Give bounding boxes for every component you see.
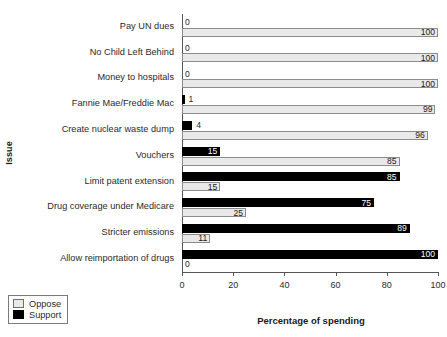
bar-row: 85	[182, 157, 438, 166]
x-tick	[387, 272, 388, 276]
category-label: Allow reimportation of drugs	[0, 253, 174, 263]
bar-row: 100	[182, 28, 438, 37]
x-tick	[336, 272, 337, 276]
bar-row: 0	[182, 69, 438, 78]
category-label: Stricter emissions	[0, 227, 174, 237]
x-tick	[233, 272, 234, 276]
bar-value-label: 15	[182, 146, 220, 156]
x-tick	[182, 272, 183, 276]
x-tick-label: 40	[279, 280, 289, 290]
category-label: Money to hospitals	[0, 72, 174, 82]
bar-group: Money to hospitals0100	[182, 66, 438, 92]
x-tick-label: 20	[228, 280, 238, 290]
bar-group: Vouchers1585	[182, 143, 438, 169]
bar-row: 100	[182, 79, 438, 88]
bar-support[interactable]	[182, 95, 185, 104]
bar-value-label: 11	[182, 233, 210, 243]
category-label: Fannie Mae/Freddie Mac	[0, 98, 174, 108]
bar-row: 15	[182, 182, 438, 191]
bar-value-label: 96	[182, 130, 428, 140]
bar-value-label: 0	[185, 17, 190, 27]
bar-group: Allow reimportation of drugs1000	[182, 246, 438, 272]
legend-label: Support	[29, 310, 61, 320]
bar-value-label: 100	[182, 79, 438, 89]
bar-value-label: 0	[185, 69, 190, 79]
x-tick	[438, 272, 439, 276]
bar-value-label: 100	[182, 27, 438, 37]
bar-value-label: 85	[182, 172, 400, 182]
bar-row: 4	[182, 121, 438, 130]
category-label: Pay UN dues	[0, 21, 174, 31]
category-label: Limit patent extension	[0, 176, 174, 186]
bar-chart: Issue 020406080100 Pay UN dues0100No Chi…	[0, 0, 447, 337]
legend-item[interactable]: Oppose	[13, 298, 61, 309]
bar-row: 0	[182, 43, 438, 52]
bar-value-label: 85	[182, 156, 400, 166]
category-label: Create nuclear waste dump	[0, 124, 174, 134]
bar-row: 85	[182, 172, 438, 181]
bar-group: Limit patent extension8515	[182, 169, 438, 195]
x-axis-title: Percentage of spending	[182, 315, 440, 326]
legend-item[interactable]: Support	[13, 309, 61, 320]
bar-row: 89	[182, 224, 438, 233]
plot-area: 020406080100 Pay UN dues0100No Child Lef…	[182, 14, 438, 272]
x-tick-label: 60	[331, 280, 341, 290]
legend-swatch-support	[13, 310, 24, 319]
x-tick	[284, 272, 285, 276]
bar-row: 99	[182, 105, 438, 114]
bar-row: 0	[182, 18, 438, 27]
bar-group: Create nuclear waste dump496	[182, 117, 438, 143]
x-axis-line	[182, 272, 439, 273]
bar-row: 1	[182, 95, 438, 104]
bar-value-label: 89	[182, 223, 410, 233]
bar-value-label: 0	[185, 259, 190, 269]
bar-group: Drug coverage under Medicare7525	[182, 195, 438, 221]
bar-row: 25	[182, 208, 438, 217]
legend-label: Oppose	[29, 299, 61, 309]
category-label: No Child Left Behind	[0, 47, 174, 57]
bar-group: Pay UN dues0100	[182, 14, 438, 40]
bar-value-label: 100	[182, 249, 438, 259]
bar-value-label: 4	[196, 120, 201, 130]
x-tick-label: 100	[430, 280, 445, 290]
bar-row: 100	[182, 53, 438, 62]
bar-value-label: 25	[182, 208, 246, 218]
chart-title	[0, 0, 447, 2]
bar-support[interactable]	[182, 121, 192, 130]
bar-row: 11	[182, 234, 438, 243]
bar-row: 15	[182, 147, 438, 156]
bar-row: 100	[182, 250, 438, 259]
legend-swatch-oppose	[13, 299, 24, 308]
bar-row: 96	[182, 131, 438, 140]
bar-value-label: 1	[189, 94, 194, 104]
x-tick-label: 0	[179, 280, 184, 290]
bar-group: Stricter emissions8911	[182, 220, 438, 246]
bar-value-label: 15	[182, 182, 220, 192]
category-label: Drug coverage under Medicare	[0, 201, 174, 211]
bar-value-label: 100	[182, 53, 438, 63]
bar-value-label: 99	[182, 104, 435, 114]
bar-value-label: 0	[185, 43, 190, 53]
bar-row: 0	[182, 260, 438, 269]
bar-value-label: 75	[182, 198, 374, 208]
category-label: Vouchers	[0, 150, 174, 160]
chart-legend: OpposeSupport	[8, 295, 68, 324]
bar-group: Fannie Mae/Freddie Mac199	[182, 91, 438, 117]
bar-row: 75	[182, 198, 438, 207]
x-tick-label: 80	[382, 280, 392, 290]
bar-group: No Child Left Behind0100	[182, 40, 438, 66]
